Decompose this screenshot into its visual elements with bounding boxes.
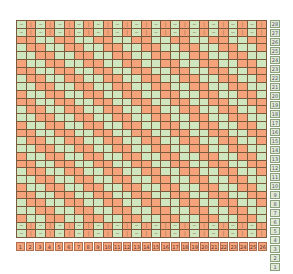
column-number: 4 bbox=[45, 242, 54, 251]
chart-cell bbox=[27, 130, 36, 137]
chart-cell bbox=[75, 153, 84, 160]
chart-cell bbox=[27, 137, 36, 144]
chart-cell bbox=[229, 114, 238, 121]
chart-cell bbox=[161, 184, 170, 191]
chart-cell bbox=[113, 207, 122, 214]
chart-cell bbox=[152, 114, 161, 121]
chart-cell bbox=[36, 161, 45, 168]
chart-cell: | bbox=[180, 223, 189, 230]
chart-cell bbox=[229, 52, 238, 59]
chart-cell bbox=[238, 52, 247, 59]
chart-cell bbox=[152, 199, 161, 206]
chart-cell bbox=[238, 130, 247, 137]
chart-cell bbox=[161, 99, 170, 106]
chart-cell bbox=[94, 192, 103, 199]
chart-cell bbox=[123, 68, 132, 75]
chart-cell bbox=[27, 114, 36, 121]
chart-cell bbox=[200, 91, 209, 98]
chart-cell bbox=[104, 122, 113, 129]
chart-cell bbox=[248, 68, 257, 75]
chart-cell bbox=[27, 184, 36, 191]
chart-cell bbox=[200, 130, 209, 137]
chart-cell bbox=[94, 52, 103, 59]
chart-cell bbox=[209, 106, 218, 113]
column-number: 20 bbox=[200, 242, 209, 251]
chart-cell bbox=[209, 215, 218, 222]
chart-cell bbox=[104, 153, 113, 160]
chart-cell bbox=[190, 37, 199, 44]
chart-cell bbox=[27, 91, 36, 98]
chart-cell bbox=[238, 176, 247, 183]
column-number: 22 bbox=[220, 242, 229, 251]
chart-cell: − bbox=[94, 21, 103, 28]
chart-cell bbox=[36, 130, 45, 137]
chart-cell bbox=[180, 75, 189, 82]
chart-cell bbox=[27, 192, 36, 199]
column-number: 25 bbox=[249, 242, 258, 251]
chart-cell bbox=[113, 52, 122, 59]
chart-cell bbox=[113, 75, 122, 82]
column-number: 24 bbox=[239, 242, 248, 251]
chart-cell bbox=[257, 91, 266, 98]
chart-cell bbox=[161, 83, 170, 90]
chart-cell bbox=[190, 130, 199, 137]
chart-cell: | bbox=[123, 230, 132, 237]
chart-cell: | bbox=[238, 223, 247, 230]
chart-cell: − bbox=[229, 29, 238, 36]
row-number: 11 bbox=[270, 173, 280, 181]
chart-cell bbox=[257, 83, 266, 90]
chart-cell: − bbox=[132, 223, 141, 230]
chart-cell bbox=[219, 207, 228, 214]
chart-cell bbox=[209, 184, 218, 191]
chart-cell: | bbox=[161, 230, 170, 237]
chart-cell bbox=[36, 199, 45, 206]
row-number: 25 bbox=[270, 47, 280, 55]
chart-cell bbox=[209, 60, 218, 67]
chart-cell bbox=[84, 184, 93, 191]
chart-cell: − bbox=[94, 29, 103, 36]
chart-cell bbox=[248, 130, 257, 137]
chart-cell: | bbox=[142, 29, 151, 36]
chart-cell bbox=[55, 137, 64, 144]
chart-cell bbox=[46, 153, 55, 160]
chart-cell bbox=[219, 52, 228, 59]
chart-cell: − bbox=[36, 29, 45, 36]
chart-cell bbox=[17, 99, 26, 106]
chart-cell bbox=[113, 199, 122, 206]
chart-cell bbox=[36, 207, 45, 214]
chart-cell bbox=[84, 99, 93, 106]
chart-cell: − bbox=[113, 29, 122, 36]
chart-cell bbox=[209, 68, 218, 75]
chart-cell bbox=[75, 192, 84, 199]
chart-cell bbox=[17, 83, 26, 90]
chart-cell bbox=[94, 130, 103, 137]
chart-cell bbox=[55, 199, 64, 206]
chart-cell bbox=[257, 60, 266, 67]
chart-cell: − bbox=[17, 223, 26, 230]
chart-cell bbox=[209, 44, 218, 51]
chart-cell bbox=[46, 91, 55, 98]
chart-cell bbox=[65, 44, 74, 51]
chart-cell: − bbox=[55, 223, 64, 230]
column-number: 1 bbox=[16, 242, 25, 251]
chart-cell bbox=[65, 75, 74, 82]
chart-cell bbox=[75, 176, 84, 183]
chart-cell bbox=[36, 37, 45, 44]
chart-cell bbox=[132, 37, 141, 44]
chart-cell bbox=[209, 168, 218, 175]
chart-cell: | bbox=[200, 21, 209, 28]
chart-cell: | bbox=[180, 29, 189, 36]
chart-cell bbox=[229, 192, 238, 199]
chart-cell bbox=[65, 215, 74, 222]
chart-cell bbox=[238, 153, 247, 160]
chart-cell bbox=[104, 168, 113, 175]
chart-cell bbox=[75, 168, 84, 175]
chart-cell bbox=[17, 37, 26, 44]
chart-cell bbox=[180, 44, 189, 51]
column-number: 2 bbox=[26, 242, 35, 251]
chart-cell bbox=[113, 106, 122, 113]
chart-cell bbox=[104, 215, 113, 222]
chart-cell: − bbox=[171, 230, 180, 237]
chart-cell bbox=[161, 192, 170, 199]
chart-cell bbox=[152, 83, 161, 90]
